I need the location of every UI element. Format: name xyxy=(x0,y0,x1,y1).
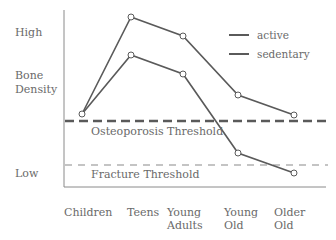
sedentary-series-line xyxy=(82,55,294,173)
x-label-line: Adults xyxy=(167,219,203,232)
y-label-high: High xyxy=(15,26,42,39)
legend-item-active: active xyxy=(229,29,289,41)
x-label-line: Children xyxy=(64,206,112,219)
fracture-threshold-label: Fracture Threshold xyxy=(91,168,199,181)
x-label-children: Children xyxy=(64,206,112,219)
x-label-line: Older xyxy=(274,206,305,219)
x-label-older-old: Older Old xyxy=(274,206,305,232)
y-axis-title-line2: Density xyxy=(15,83,57,96)
x-label-teens: Teens xyxy=(127,206,159,219)
legend-swatch-sedentary xyxy=(229,53,249,55)
x-label-young-adults: Young Adults xyxy=(167,206,203,232)
osteoporosis-threshold-label: Osteoporosis Threshold xyxy=(91,125,223,138)
x-label-line: Young xyxy=(224,206,258,219)
x-label-line: Old xyxy=(274,219,305,232)
y-axis-title-line1: Bone xyxy=(15,69,43,82)
legend-swatch-active xyxy=(229,34,249,36)
legend-label-sedentary: sedentary xyxy=(257,48,310,60)
x-label-young-old: Young Old xyxy=(224,206,258,232)
sedentary-series-markers xyxy=(128,52,297,176)
x-label-line: Teens xyxy=(127,206,159,219)
legend-item-sedentary: sedentary xyxy=(229,48,310,60)
x-label-line: Old xyxy=(224,219,258,232)
y-label-low: Low xyxy=(15,167,38,180)
x-label-line: Young xyxy=(167,206,203,219)
legend-label-active: active xyxy=(257,29,289,41)
